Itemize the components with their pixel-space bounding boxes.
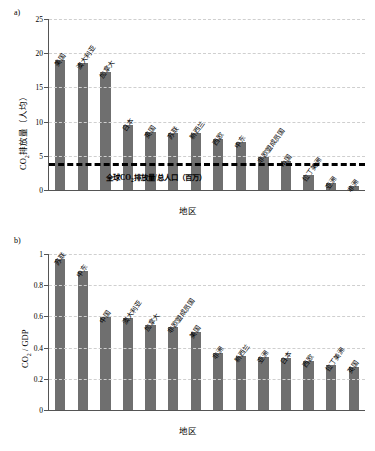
- bar: [168, 327, 178, 410]
- y-title-b-pre: CO: [20, 356, 30, 368]
- y-axis-tick-mark: [44, 316, 48, 317]
- panel-b-plot-area: [48, 254, 365, 411]
- gridline: [49, 348, 365, 349]
- y-axis-tick-label: 20: [17, 49, 43, 58]
- panel-a-x-axis-title: 地区: [0, 204, 375, 216]
- annotation-post: 排放量/总人口（百万）: [134, 173, 206, 182]
- y-axis-tick-mark: [44, 156, 48, 157]
- annotation-pre: 全球CO: [106, 173, 131, 182]
- y-axis-tick-mark: [44, 348, 48, 349]
- bar: [191, 332, 201, 410]
- bar: [78, 271, 88, 410]
- bar: [303, 361, 313, 410]
- gridline: [49, 379, 365, 380]
- bar: [55, 60, 65, 190]
- bar: [78, 63, 88, 190]
- panel-b-tag: b): [14, 236, 21, 245]
- y-axis-tick-label: 15: [17, 83, 43, 92]
- panel-b-x-axis-title: 地区: [0, 424, 375, 436]
- bar: [236, 356, 246, 410]
- chart-panel-b: b) CO2 / GDP 00.20.40.60.81 地区 苏联中东中国澳大利…: [0, 228, 375, 451]
- y-axis-tick-label: 0.2: [17, 374, 43, 383]
- bar: [100, 317, 110, 410]
- y-axis-tick-label: 0: [17, 406, 43, 415]
- bar: [213, 353, 223, 410]
- y-axis-tick-label: 0.8: [17, 281, 43, 290]
- gridline: [49, 19, 365, 20]
- gridline: [49, 254, 365, 255]
- y-axis-tick-label: 10: [17, 117, 43, 126]
- gridline: [49, 285, 365, 286]
- y-axis-tick-mark: [44, 190, 48, 191]
- y-axis-tick-mark: [44, 122, 48, 123]
- y-axis-tick-label: 1: [17, 250, 43, 259]
- y-axis-tick-mark: [44, 87, 48, 88]
- y-axis-tick-label: 0.4: [17, 343, 43, 352]
- y-axis-tick-label: 0.6: [17, 312, 43, 321]
- gridline: [49, 122, 365, 123]
- reference-line-annotation: 全球CO2排放量/总人口（百万）: [106, 171, 206, 183]
- bar: [258, 357, 268, 410]
- y-axis-tick-label: 5: [17, 151, 43, 160]
- chart-panel-a: a) CO2排放量（人均） 0510152025 地区 美国澳大利亚加拿大日本英…: [0, 0, 375, 228]
- y-title-b-sub: 2: [26, 353, 32, 356]
- gridline: [49, 87, 365, 88]
- y-axis-tick-mark: [44, 379, 48, 380]
- y-axis-tick-label: 0: [17, 186, 43, 195]
- y-axis-tick-label: 25: [17, 15, 43, 24]
- gridline: [49, 316, 365, 317]
- y-axis-tick-mark: [44, 19, 48, 20]
- panel-b-bars: [49, 254, 365, 410]
- bar: [123, 318, 133, 410]
- bar: [55, 259, 65, 410]
- y-axis-tick-mark: [44, 410, 48, 411]
- y-axis-tick-mark: [44, 254, 48, 255]
- bar: [145, 325, 155, 410]
- y-axis-tick-mark: [44, 53, 48, 54]
- gridline: [49, 53, 365, 54]
- y-axis-tick-mark: [44, 285, 48, 286]
